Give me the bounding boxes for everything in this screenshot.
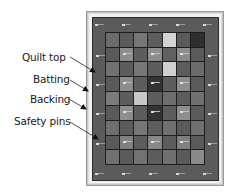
quilt-block — [191, 106, 204, 120]
quilt-block — [148, 150, 161, 164]
quilt-block — [177, 33, 190, 47]
safety-pin-bar-icon — [98, 173, 104, 174]
quilt-block — [191, 136, 204, 150]
quilt-block — [106, 121, 119, 135]
safety-pin-bar-icon — [126, 141, 132, 142]
safety-pin-bar-icon — [154, 111, 160, 112]
quilt-block — [191, 77, 204, 91]
quilt-block — [163, 62, 176, 76]
safety-pin-bar-icon — [211, 113, 217, 114]
quilt-block — [120, 62, 133, 76]
quilt-block — [177, 92, 190, 106]
quilt-block-grid — [105, 32, 205, 165]
quilt-block — [148, 136, 161, 150]
safety-pin-bar-icon — [99, 55, 105, 56]
safety-pin-bar-icon — [98, 24, 104, 25]
safety-pin-bar-icon — [154, 141, 160, 142]
quilt-block — [191, 48, 204, 62]
quilt-block — [177, 136, 190, 150]
quilt-block — [120, 150, 133, 164]
quilt-block — [120, 48, 133, 62]
safety-pin-bar-icon — [99, 143, 105, 144]
quilt-block — [163, 92, 176, 106]
safety-pin-bar-icon — [99, 84, 105, 85]
quilt-block — [177, 48, 190, 62]
quilt-block — [148, 33, 161, 47]
safety-pin-bar-icon — [154, 53, 160, 54]
quilt-block — [106, 92, 119, 106]
quilt-block — [163, 150, 176, 164]
safety-pin-bar-icon — [125, 173, 131, 174]
quilt-block — [106, 77, 119, 91]
safety-pin-bar-icon — [211, 55, 217, 56]
quilt-block — [177, 62, 190, 76]
safety-pin-bar-icon — [179, 173, 185, 174]
quilt-block — [134, 48, 147, 62]
safety-pin-bar-icon — [211, 143, 217, 144]
label-quilt-top: Quilt top — [22, 51, 66, 63]
quilt-block — [148, 62, 161, 76]
quilt-block — [191, 33, 204, 47]
quilt-block — [163, 33, 176, 47]
safety-pin-bar-icon — [99, 113, 105, 114]
quilt-block — [106, 150, 119, 164]
quilt-block — [106, 136, 119, 150]
quilt-block — [120, 136, 133, 150]
quilt-block — [134, 150, 147, 164]
quilt-block — [120, 106, 133, 120]
quilt-block — [106, 106, 119, 120]
safety-pin-bar-icon — [126, 82, 132, 83]
safety-pin-bar-icon — [206, 24, 212, 25]
quilt-block — [148, 77, 161, 91]
quilt-block — [120, 121, 133, 135]
quilt-block — [134, 77, 147, 91]
quilt-block — [191, 92, 204, 106]
quilt-block — [134, 62, 147, 76]
label-safety-pins: Safety pins — [14, 115, 70, 127]
quilt-block — [134, 33, 147, 47]
quilt-block — [148, 106, 161, 120]
label-batting: Batting — [33, 73, 70, 85]
quilt-block — [134, 136, 147, 150]
safety-pin-bar-icon — [126, 111, 132, 112]
quilt-block — [191, 150, 204, 164]
quilt-block — [148, 121, 161, 135]
quilt-block — [163, 136, 176, 150]
safety-pin-bar-icon — [125, 24, 131, 25]
safety-pin-bar-icon — [154, 82, 160, 83]
safety-pin-bar-icon — [211, 84, 217, 85]
quilt-block — [106, 33, 119, 47]
quilt-block — [191, 121, 204, 135]
quilt-block — [163, 106, 176, 120]
safety-pin-bar-icon — [152, 173, 158, 174]
quilt-block — [134, 121, 147, 135]
quilt-block — [134, 92, 147, 106]
safety-pin-bar-icon — [126, 53, 132, 54]
quilt-block — [177, 121, 190, 135]
quilt-block — [163, 77, 176, 91]
safety-pin-bar-icon — [183, 53, 189, 54]
safety-pin-bar-icon — [152, 24, 158, 25]
safety-pin-bar-icon — [179, 24, 185, 25]
quilt-block — [177, 106, 190, 120]
safety-pin-bar-icon — [183, 141, 189, 142]
safety-pin-bar-icon — [183, 82, 189, 83]
quilt-block — [106, 62, 119, 76]
quilt-block — [148, 48, 161, 62]
safety-pin-bar-icon — [206, 173, 212, 174]
quilt-block — [163, 48, 176, 62]
quilt-block — [106, 48, 119, 62]
quilt-block — [148, 92, 161, 106]
quilt-diagram: Quilt top Batting Backing Safety pins — [0, 0, 235, 196]
safety-pin-bar-icon — [183, 111, 189, 112]
backing-leader-arrow-icon — [69, 99, 86, 109]
label-backing: Backing — [30, 93, 70, 105]
quilt-block — [177, 77, 190, 91]
quilt-block — [120, 77, 133, 91]
quilt-block — [163, 121, 176, 135]
quilt-block — [191, 62, 204, 76]
quilt-block — [120, 33, 133, 47]
quilt-block — [120, 92, 133, 106]
quilt-block — [134, 106, 147, 120]
quilt-block — [177, 150, 190, 164]
